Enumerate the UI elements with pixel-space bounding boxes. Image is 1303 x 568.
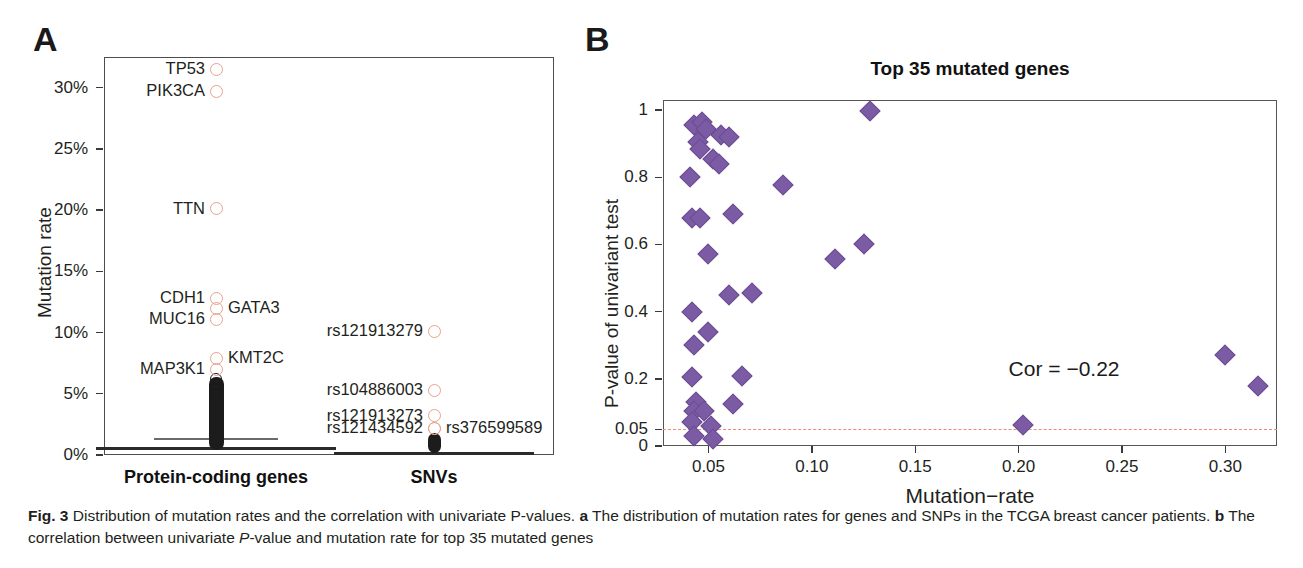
- gene-label: CDH1: [160, 288, 205, 307]
- gene-marker: [210, 85, 223, 98]
- gene-label: TP53: [166, 59, 205, 78]
- gene-marker: [210, 363, 223, 376]
- y-tick-mark: [96, 454, 103, 455]
- y-tick-mark: [655, 445, 662, 446]
- caption-fig-label: Fig. 3: [28, 507, 68, 524]
- x-tick-mark: [1225, 446, 1226, 453]
- gene-marker: [210, 63, 223, 76]
- caption-a-text: The distribution of mutation rates for g…: [588, 507, 1215, 524]
- snv-outlier-stack: [428, 433, 441, 453]
- caption-main-text: Distribution of mutation rates and the c…: [68, 507, 579, 524]
- figure-3: A 0%5%10%15%20%25%30% Mutation rate TP53…: [0, 0, 1303, 568]
- y-tick-mark: [655, 378, 662, 379]
- y-tick-label: 10%: [54, 323, 88, 343]
- caption-a-label: a: [579, 507, 588, 524]
- y-tick-mark: [96, 209, 103, 210]
- gene-label: rs104886003: [327, 380, 423, 399]
- y-tick-label: 0.8: [624, 167, 648, 187]
- gene-marker: [428, 384, 441, 397]
- y-tick-label: 25%: [54, 139, 88, 159]
- x-tick-mark: [915, 446, 916, 453]
- x-tick-mark: [811, 446, 812, 453]
- x-tick-mark: [708, 446, 709, 453]
- y-tick-mark: [655, 244, 662, 245]
- gene-label: rs121434592: [327, 418, 423, 437]
- panel-b-plot-frame: [663, 100, 1277, 446]
- y-tick-label: 1: [639, 100, 648, 120]
- figure-caption: Fig. 3 Distribution of mutation rates an…: [28, 505, 1283, 549]
- gene-label: MUC16: [149, 309, 205, 328]
- gene-label: GATA3: [228, 298, 280, 317]
- y-tick-label: 5%: [63, 384, 88, 404]
- gene-marker: [428, 325, 441, 338]
- panel-a-y-axis-title: Mutation rate: [34, 207, 56, 318]
- y-tick-label: 0.2: [624, 369, 648, 389]
- gene-label: PIK3CA: [146, 81, 205, 100]
- gene-marker: [428, 409, 441, 422]
- y-tick-mark: [96, 393, 103, 394]
- gene-label: rs121913279: [327, 321, 423, 340]
- panel-a-letter: A: [33, 22, 58, 56]
- y-tick-label: 0%: [63, 445, 88, 465]
- gene-label: rs376599589: [446, 418, 542, 437]
- gene-marker: [428, 422, 441, 435]
- y-tick-label: 20%: [54, 200, 88, 220]
- y-tick-mark: [655, 177, 662, 178]
- y-tick-mark: [655, 311, 662, 312]
- x-tick-label: 0.05: [692, 457, 725, 477]
- y-tick-label: 15%: [54, 261, 88, 281]
- caption-b-italic-p: P: [239, 529, 249, 546]
- gene-marker: [210, 202, 223, 215]
- x-tick-label: 0.20: [1002, 457, 1035, 477]
- gene-label: KMT2C: [228, 348, 284, 367]
- group-label: SNVs: [410, 467, 457, 488]
- panel-b-y-axis-title: P-value of univariant test: [601, 199, 623, 408]
- x-tick-mark: [1121, 446, 1122, 453]
- panel-b-letter: B: [585, 22, 610, 56]
- x-tick-mark: [1018, 446, 1019, 453]
- caption-b-text-2: -value and mutation rate for top 35 muta…: [249, 529, 593, 546]
- x-tick-label: 0.30: [1209, 457, 1242, 477]
- gene-label: MAP3K1: [140, 359, 205, 378]
- significance-threshold-line: [663, 429, 1277, 430]
- y-tick-label: 30%: [54, 78, 88, 98]
- panel-b-title: Top 35 mutated genes: [870, 58, 1069, 80]
- boxplot-outlier: [210, 388, 222, 400]
- y-tick-label: 0.6: [624, 234, 648, 254]
- gene-label: TTN: [173, 199, 205, 218]
- correlation-annotation: Cor = −0.22: [1009, 357, 1120, 381]
- group-label: Protein-coding genes: [124, 467, 308, 488]
- y-tick-mark: [96, 271, 103, 272]
- y-tick-mark: [96, 332, 103, 333]
- y-tick-label: 0.05: [615, 419, 648, 439]
- gene-marker: [210, 313, 223, 326]
- y-tick-mark: [655, 109, 662, 110]
- y-tick-mark: [96, 87, 103, 88]
- x-tick-label: 0.15: [899, 457, 932, 477]
- y-tick-mark: [96, 148, 103, 149]
- x-tick-label: 0.10: [795, 457, 828, 477]
- x-tick-label: 0.25: [1105, 457, 1138, 477]
- caption-b-label: b: [1215, 507, 1224, 524]
- y-tick-label: 0.4: [624, 302, 648, 322]
- y-tick-mark: [655, 429, 662, 430]
